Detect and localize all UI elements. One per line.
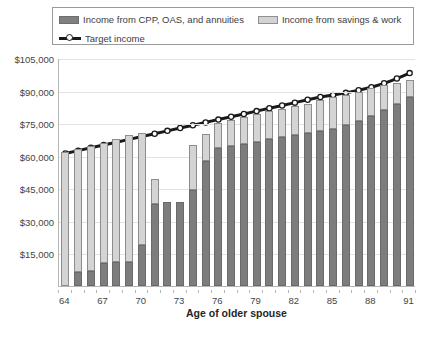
bar-segment-savings-work[interactable]: [406, 80, 414, 97]
bar-column[interactable]: [112, 139, 120, 286]
bar-segment-cpp-oas-annuities[interactable]: [112, 262, 120, 286]
bar-segment-cpp-oas-annuities[interactable]: [87, 271, 95, 286]
bar-column[interactable]: [367, 88, 375, 286]
bar-segment-savings-work[interactable]: [342, 95, 350, 125]
bar-segment-cpp-oas-annuities[interactable]: [202, 161, 210, 286]
bar-segment-cpp-oas-annuities[interactable]: [138, 245, 146, 286]
bar-column[interactable]: [316, 100, 324, 286]
x-axis-tick: [390, 290, 391, 293]
bar-segment-savings-work[interactable]: [291, 106, 299, 135]
bar-segment-cpp-oas-annuities[interactable]: [393, 104, 401, 286]
bar-column[interactable]: [329, 97, 337, 286]
bar-segment-savings-work[interactable]: [355, 92, 363, 121]
bar-segment-savings-work[interactable]: [329, 97, 337, 128]
bar-segment-cpp-oas-annuities[interactable]: [189, 190, 197, 286]
target-income-point[interactable]: [229, 114, 234, 119]
bar-segment-cpp-oas-annuities[interactable]: [240, 144, 248, 286]
bar-column[interactable]: [138, 133, 146, 286]
bar-segment-savings-work[interactable]: [61, 152, 69, 286]
bar-column[interactable]: [74, 149, 82, 286]
bar-segment-cpp-oas-annuities[interactable]: [342, 125, 350, 286]
bar-column[interactable]: [202, 134, 210, 286]
bar-column[interactable]: [176, 202, 184, 286]
target-income-point[interactable]: [165, 128, 170, 133]
target-income-point[interactable]: [407, 71, 412, 76]
target-income-point[interactable]: [394, 76, 399, 81]
target-income-point[interactable]: [152, 131, 157, 136]
bar-segment-savings-work[interactable]: [265, 111, 273, 139]
bar-segment-cpp-oas-annuities[interactable]: [253, 142, 261, 286]
bar-segment-savings-work[interactable]: [87, 146, 95, 271]
bar-segment-cpp-oas-annuities[interactable]: [316, 131, 324, 286]
bar-segment-savings-work[interactable]: [202, 134, 210, 161]
bar-segment-savings-work[interactable]: [125, 135, 133, 262]
bar-column[interactable]: [240, 117, 248, 286]
target-income-point[interactable]: [267, 106, 272, 111]
target-income-point[interactable]: [318, 94, 323, 99]
bar-segment-cpp-oas-annuities[interactable]: [380, 110, 388, 286]
target-income-point[interactable]: [178, 125, 183, 130]
target-income-point[interactable]: [216, 117, 221, 122]
bar-segment-cpp-oas-annuities[interactable]: [291, 135, 299, 286]
bar-column[interactable]: [265, 111, 273, 286]
bar-column[interactable]: [304, 104, 312, 286]
bar-column[interactable]: [406, 80, 414, 286]
bar-column[interactable]: [342, 95, 350, 286]
target-income-point[interactable]: [292, 100, 297, 105]
bar-segment-savings-work[interactable]: [100, 143, 108, 264]
bar-segment-savings-work[interactable]: [214, 123, 222, 148]
bar-column[interactable]: [87, 146, 95, 286]
bar-segment-savings-work[interactable]: [393, 83, 401, 104]
bar-segment-savings-work[interactable]: [380, 85, 388, 110]
bar-segment-cpp-oas-annuities[interactable]: [163, 202, 171, 286]
bar-segment-savings-work[interactable]: [74, 149, 82, 272]
x-axis-tick-label: 91: [403, 295, 414, 306]
bar-segment-savings-work[interactable]: [240, 117, 248, 144]
bar-segment-cpp-oas-annuities[interactable]: [355, 121, 363, 286]
bar-segment-cpp-oas-annuities[interactable]: [151, 204, 159, 287]
bar-column[interactable]: [253, 114, 261, 286]
bar-column[interactable]: [100, 143, 108, 286]
bar-segment-cpp-oas-annuities[interactable]: [304, 133, 312, 286]
bar-column[interactable]: [278, 109, 286, 286]
target-income-point[interactable]: [280, 103, 285, 108]
target-income-point[interactable]: [254, 109, 259, 114]
bar-segment-savings-work[interactable]: [316, 100, 324, 130]
bar-segment-savings-work[interactable]: [112, 139, 120, 262]
legend-item-cpp-oas-annuities: Income from CPP, OAS, and annuities: [59, 14, 244, 25]
bar-column[interactable]: [291, 106, 299, 286]
bar-column[interactable]: [380, 85, 388, 286]
legend-row-1: Income from CPP, OAS, and annuities Inco…: [59, 12, 407, 27]
bar-column[interactable]: [125, 135, 133, 286]
bar-segment-cpp-oas-annuities[interactable]: [265, 139, 273, 286]
bar-column[interactable]: [227, 120, 235, 286]
bar-segment-savings-work[interactable]: [227, 120, 235, 146]
bar-segment-cpp-oas-annuities[interactable]: [176, 202, 184, 286]
bar-segment-cpp-oas-annuities[interactable]: [125, 262, 133, 286]
bar-column[interactable]: [163, 202, 171, 286]
x-axis-tick-label: 85: [327, 295, 338, 306]
bar-column[interactable]: [61, 152, 69, 286]
x-axis-tick: [275, 290, 276, 293]
bar-segment-cpp-oas-annuities[interactable]: [278, 137, 286, 286]
target-income-point[interactable]: [305, 97, 310, 102]
bar-segment-cpp-oas-annuities[interactable]: [214, 148, 222, 286]
bar-segment-savings-work[interactable]: [278, 109, 286, 137]
bar-segment-savings-work[interactable]: [138, 133, 146, 245]
bar-segment-savings-work[interactable]: [304, 104, 312, 133]
bar-segment-cpp-oas-annuities[interactable]: [100, 263, 108, 286]
bar-column[interactable]: [151, 179, 159, 286]
bar-segment-cpp-oas-annuities[interactable]: [406, 97, 414, 286]
bar-column[interactable]: [214, 123, 222, 286]
bar-segment-cpp-oas-annuities[interactable]: [74, 272, 82, 286]
bar-segment-savings-work[interactable]: [151, 179, 159, 204]
bar-column[interactable]: [189, 145, 197, 286]
bar-column[interactable]: [393, 83, 401, 286]
bar-segment-cpp-oas-annuities[interactable]: [329, 129, 337, 286]
bar-segment-savings-work[interactable]: [189, 145, 197, 191]
bar-column[interactable]: [355, 92, 363, 286]
bar-segment-cpp-oas-annuities[interactable]: [227, 146, 235, 286]
bar-segment-cpp-oas-annuities[interactable]: [367, 116, 375, 286]
bar-segment-savings-work[interactable]: [253, 114, 261, 141]
bar-segment-savings-work[interactable]: [367, 88, 375, 115]
